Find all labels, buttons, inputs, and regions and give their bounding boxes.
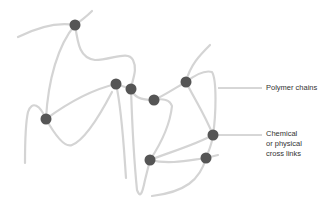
leader-lines (218, 88, 262, 135)
polymer-chain (116, 84, 126, 178)
cross-links-label: Chemical or physical cross links (266, 129, 302, 159)
polymer-chain (131, 89, 150, 194)
cross-links-line-2: or physical (266, 139, 302, 149)
polymer-chain (75, 25, 135, 89)
cross-link-node (70, 20, 81, 31)
cross-link-node (41, 114, 52, 125)
polymer-chain (150, 99, 172, 160)
polymer-chain (46, 84, 116, 119)
polymer-chains-text: Polymer chains (266, 83, 317, 93)
cross-link-node (126, 84, 137, 95)
cross-link-node (149, 95, 160, 106)
polymer-chain (18, 11, 92, 37)
polymer-chain (46, 92, 112, 145)
polymer-chains (18, 11, 218, 196)
cross-link-node (208, 130, 219, 141)
cross-link-node (145, 155, 156, 166)
cross-link-node (111, 79, 122, 90)
cross-links-line-3: cross links (266, 149, 302, 159)
polymer-chain (186, 82, 213, 135)
cross-link-node (201, 153, 212, 164)
cross-links-line-1: Chemical (266, 129, 302, 139)
polymer-chain (25, 25, 75, 163)
cross-link-node (181, 77, 192, 88)
polymer-network-diagram (0, 0, 336, 206)
polymer-chain (186, 45, 210, 82)
polymer-chains-label: Polymer chains (266, 83, 317, 93)
polymer-chain (152, 135, 213, 196)
